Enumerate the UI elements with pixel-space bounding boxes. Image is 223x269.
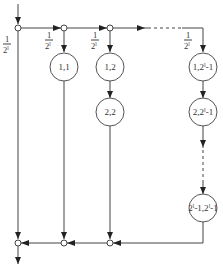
node-1-1-label: 1,1 — [58, 62, 69, 72]
sum-node — [15, 240, 21, 246]
arrow-icon — [137, 25, 145, 31]
arrow-icon — [67, 240, 75, 246]
weight-label-col2: 1 2l — [91, 30, 99, 51]
arrow-icon — [107, 232, 113, 239]
node-1-N-label: 1,2l-1 — [193, 62, 213, 72]
arrow-icon — [21, 240, 29, 246]
arrow-icon — [15, 257, 21, 264]
arrow-icon — [200, 91, 206, 98]
arrow-icon — [200, 187, 206, 194]
svg-text:2l: 2l — [91, 41, 97, 51]
arrow-icon — [107, 45, 113, 52]
sum-node — [107, 240, 113, 246]
arrow-icon — [200, 45, 206, 52]
weight-label-colN: 1 2l — [184, 30, 192, 51]
node-1-2-label: 1,2 — [104, 62, 115, 72]
arrow-icon — [15, 17, 21, 24]
arrow-icon — [61, 45, 67, 52]
junction-node — [15, 25, 21, 31]
arrow-icon — [99, 25, 107, 31]
svg-text:1: 1 — [93, 30, 97, 40]
svg-text:1: 1 — [5, 34, 9, 44]
arrow-icon — [15, 232, 21, 239]
arrow-icon — [107, 91, 113, 98]
svg-text:2l: 2l — [45, 41, 51, 51]
svg-text:2l: 2l — [3, 45, 9, 55]
junction-node — [107, 25, 113, 31]
junction-node — [61, 25, 67, 31]
weight-label-col1: 1 2l — [45, 30, 53, 51]
node-2-N-label: 2,2l-1 — [193, 107, 213, 117]
arrow-icon — [61, 232, 67, 239]
arrow-icon — [53, 25, 61, 31]
svg-text:1: 1 — [186, 30, 190, 40]
svg-text:1: 1 — [47, 30, 51, 40]
arrow-icon — [113, 240, 121, 246]
flow-diagram: 1,1 1,2 2,2 1,2l-1 2,2l-1 2l-1,2l-1 1 2l… — [0, 0, 223, 269]
node-2-2-label: 2,2 — [104, 107, 115, 117]
node-N-N-label: 2l-1,2l-1 — [188, 203, 217, 213]
sum-node — [61, 240, 67, 246]
svg-text:2l: 2l — [184, 41, 190, 51]
weight-label-input: 1 2l — [3, 34, 11, 55]
arrow-icon — [200, 140, 206, 147]
